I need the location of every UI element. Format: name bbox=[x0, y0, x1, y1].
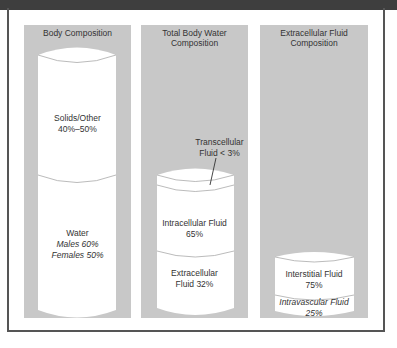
extracellular-segment: Extracellular Fluid 32% bbox=[141, 268, 248, 290]
intravascular-label: Intravascular Fluid bbox=[260, 297, 368, 308]
solids-segment: Solids/Other 40%–50% bbox=[24, 113, 131, 135]
intracellular-value: 65% bbox=[141, 229, 248, 240]
intracellular-segment: Intracellular Fluid 65% bbox=[141, 218, 248, 240]
transcellular-callout: Transcellular Fluid < 3% bbox=[191, 137, 248, 159]
interstitial-value: 75% bbox=[260, 280, 368, 291]
water-label: Water bbox=[24, 228, 131, 239]
panel-body-composition: Body Composition Solids/Other 40%–50% Wa… bbox=[24, 25, 131, 318]
water-females: Females 50% bbox=[24, 250, 131, 261]
extracellular-value: Fluid 32% bbox=[141, 279, 248, 290]
water-males: Males 60% bbox=[24, 239, 131, 250]
intravascular-segment: Intravascular Fluid 25% bbox=[260, 297, 368, 319]
body-composition-cylinder bbox=[24, 25, 131, 318]
solids-value: 40%–50% bbox=[24, 124, 131, 135]
intracellular-label: Intracellular Fluid bbox=[141, 218, 248, 229]
callout-line2: Fluid < 3% bbox=[191, 148, 248, 159]
interstitial-label: Interstitial Fluid bbox=[260, 269, 368, 280]
panel-extracellular-fluid: Extracellular Fluid Composition Intersti… bbox=[260, 25, 368, 318]
intravascular-value: 25% bbox=[260, 308, 368, 319]
extracellular-label: Extracellular bbox=[141, 268, 248, 279]
water-segment: Water Males 60% Females 50% bbox=[24, 228, 131, 261]
interstitial-segment: Interstitial Fluid 75% bbox=[260, 269, 368, 291]
panel-total-body-water: Total Body Water Composition Transcellul… bbox=[141, 25, 248, 318]
solids-label: Solids/Other bbox=[24, 113, 131, 124]
callout-line1: Transcellular bbox=[191, 137, 248, 148]
